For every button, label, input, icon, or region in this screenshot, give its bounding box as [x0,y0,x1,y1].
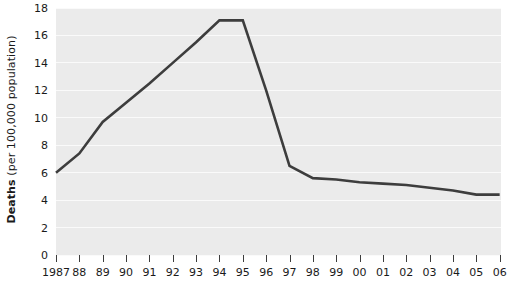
chart-figure: Deaths (per 100,000 population) 02468101… [0,0,510,291]
plot-area [56,8,501,255]
x-axis-tick-mark [500,255,501,262]
x-axis-tick-label: 98 [306,266,320,279]
x-axis-tick-label: 90 [119,266,133,279]
x-axis-tick-mark [56,255,57,262]
x-axis-tick-label: 03 [423,266,437,279]
y-axis-tick-label: 14 [34,56,48,69]
x-axis-tick-label: 1987 [42,266,70,279]
x-axis-tick-mark [476,255,477,262]
x-axis-tick-label: 00 [353,266,367,279]
x-axis-tick-label: 96 [259,266,273,279]
x-axis-tick-mark [196,255,197,262]
x-axis-tick-mark [103,255,104,262]
x-axis-tick-label: 02 [399,266,413,279]
y-axis-tick-label: 16 [34,29,48,42]
x-axis-tick-mark [266,255,267,262]
x-axis-tick-mark [79,255,80,262]
y-axis-tick-label: 2 [41,221,48,234]
x-axis-tick-mark [383,255,384,262]
x-axis-tick-mark [243,255,244,262]
x-axis-tick-label: 97 [283,266,297,279]
x-axis-tick-label: 99 [329,266,343,279]
y-axis-tick-labels: 024681012141618 [0,0,52,291]
x-axis-tick-label: 06 [493,266,507,279]
x-axis-tick-mark [219,255,220,262]
x-axis-tick-label: 89 [96,266,110,279]
x-axis-tick-label: 01 [376,266,390,279]
x-axis-tick-label: 95 [236,266,250,279]
y-axis-tick-label: 12 [34,84,48,97]
x-axis-tick-mark [360,255,361,262]
x-axis-tick-mark [126,255,127,262]
y-axis-tick-label: 8 [41,139,48,152]
x-axis-tick-label: 91 [142,266,156,279]
y-axis-tick-label: 4 [41,194,48,207]
x-axis-tick-label: 05 [469,266,483,279]
x-axis-tick-label: 88 [72,266,86,279]
x-axis-tick-mark [173,255,174,262]
x-axis-tick-mark [430,255,431,262]
deaths-line [56,20,500,194]
y-axis-tick-label: 18 [34,2,48,15]
x-axis-tick-mark [149,255,150,262]
x-axis-tick-label: 04 [446,266,460,279]
x-axis-tick-mark [336,255,337,262]
x-axis-tick-label: 94 [212,266,226,279]
y-axis-tick-label: 6 [41,166,48,179]
x-axis-tick-mark [453,255,454,262]
x-axis-tick-label: 93 [189,266,203,279]
x-axis-tick-labels: 1987888990919293949596979899000102030405… [0,255,510,291]
y-axis-tick-label: 10 [34,111,48,124]
x-axis-tick-mark [290,255,291,262]
x-axis-tick-mark [313,255,314,262]
data-series-line [56,8,501,255]
x-axis-tick-mark [406,255,407,262]
x-axis-tick-label: 92 [166,266,180,279]
